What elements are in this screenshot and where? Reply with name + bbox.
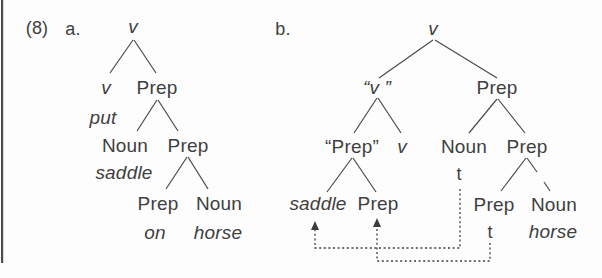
- branch-line: [354, 98, 377, 133]
- arrowhead-up-icon: [311, 221, 319, 230]
- arrowhead-up-icon: [373, 218, 381, 227]
- branch-line: [379, 40, 433, 78]
- page-border: [1, 0, 3, 263]
- tree-b-root-v: v: [428, 18, 438, 40]
- tree-b-v-lower: v: [397, 136, 407, 158]
- tree-b-v-quoted: “v ”: [363, 77, 391, 99]
- tree-b-prep-b: Prep: [474, 194, 515, 216]
- tree-b-prep-quoted: “Prep”: [325, 136, 379, 158]
- tree-b-word-horse: horse: [529, 221, 578, 243]
- branch-line: [134, 40, 156, 73]
- branch-line: [158, 100, 178, 131]
- branch-line: [166, 157, 187, 189]
- branch-line: [353, 158, 376, 192]
- branch-line: [327, 158, 352, 192]
- tree-a-noun-2: Noun: [196, 193, 242, 215]
- branch-line: [498, 99, 525, 133]
- branch-line: [435, 40, 497, 78]
- branch-line: [137, 100, 157, 131]
- tree-b-trace-1: t: [456, 164, 461, 185]
- tree-b-noun-2: Noun: [531, 194, 577, 216]
- tree-a-word-horse: horse: [194, 222, 243, 244]
- tree-a-v-head: v: [101, 77, 111, 99]
- tree-a-prep-3: Prep: [138, 193, 179, 215]
- branch-line: [469, 99, 497, 133]
- item-a-label: a.: [65, 19, 80, 40]
- tree-b-prep-top: Prep: [477, 77, 518, 99]
- tree-b-prep-a: Prep: [358, 193, 399, 215]
- tree-a-word-on: on: [144, 222, 166, 244]
- branch-line: [378, 98, 401, 133]
- branch-line: [110, 40, 133, 73]
- tree-a-prep-1: Prep: [137, 77, 178, 99]
- tree-b-prep-mid: Prep: [507, 136, 548, 158]
- tree-b-trace-2: t: [487, 222, 492, 243]
- tree-a-word-put: put: [89, 107, 116, 129]
- branch-line: [188, 157, 208, 189]
- movement-arrow-trace2-to-prep: [377, 223, 490, 261]
- tree-b-word-saddle: saddle: [289, 193, 346, 215]
- tree-a-prep-2: Prep: [168, 135, 209, 157]
- example-number: (8): [26, 18, 49, 39]
- branch-line: [527, 158, 537, 172]
- item-b-label: b.: [275, 19, 290, 40]
- tree-a-root-v: v: [128, 16, 138, 38]
- branch-line: [501, 158, 526, 191]
- tree-b-noun-1: Noun: [441, 136, 487, 158]
- tree-a-word-saddle: saddle: [95, 162, 152, 184]
- branch-line: [544, 182, 550, 191]
- tree-a-noun-1: Noun: [102, 135, 148, 157]
- syntax-tree-figure: (8) a. b. v v Prep put Noun Prep saddle …: [0, 0, 602, 278]
